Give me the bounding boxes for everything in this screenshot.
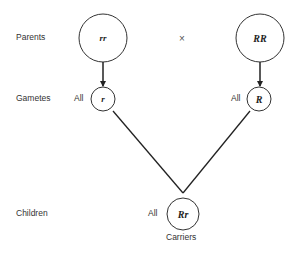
parent-rr-genotype: rr — [99, 33, 107, 43]
child-caption: Carriers — [166, 232, 196, 242]
row-label-children: Children — [16, 208, 48, 218]
parent-RR-genotype: RR — [252, 33, 267, 44]
child-prefix: All — [148, 208, 157, 218]
gamete-R-genotype: R — [255, 94, 263, 105]
line-r-to-child — [113, 111, 183, 193]
row-label-parents: Parents — [16, 32, 45, 42]
child-Rr-genotype: Rr — [177, 209, 189, 220]
row-label-gametes: Gametes — [16, 93, 51, 103]
gamete-r-prefix: All — [74, 93, 83, 103]
gamete-R-prefix: All — [231, 93, 240, 103]
line-R-to-child — [183, 111, 250, 193]
gamete-r-genotype: r — [101, 94, 105, 104]
cross-symbol: × — [179, 33, 185, 44]
